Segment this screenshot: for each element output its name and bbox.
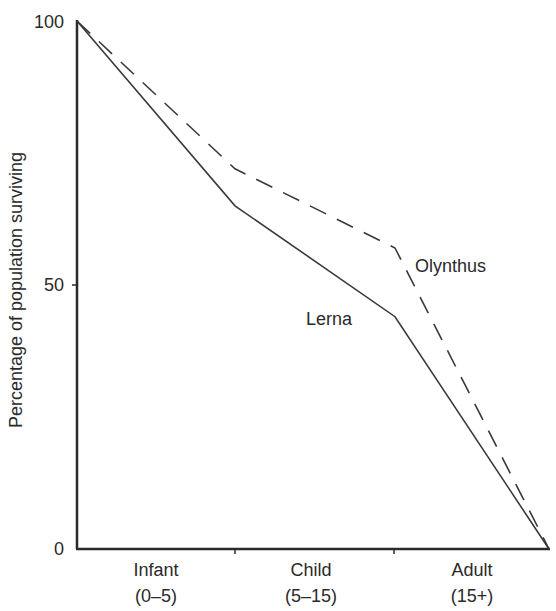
series-label-lerna: Lerna	[306, 309, 353, 329]
series-layer: Lerna Olynthus	[77, 21, 549, 549]
x-category-child-range: (5–15)	[285, 586, 337, 606]
survival-chart: 100 50 0 Percentage of population surviv…	[0, 0, 556, 611]
x-category-adult: Adult	[451, 560, 492, 580]
y-tick-50: 50	[44, 275, 64, 295]
y-axis-title: Percentage of population surviving	[6, 152, 26, 428]
x-category-infant-range: (0–5)	[135, 586, 177, 606]
y-tick-100: 100	[34, 12, 64, 32]
x-axis: Infant (0–5) Child (5–15) Adult (15+)	[76, 549, 550, 606]
x-category-adult-range: (15+)	[451, 586, 494, 606]
series-label-olynthus: Olynthus	[415, 256, 486, 276]
line-lerna	[77, 21, 549, 549]
y-axis: 100 50 0 Percentage of population surviv…	[6, 12, 77, 559]
x-category-child: Child	[290, 560, 331, 580]
y-tick-0: 0	[54, 539, 64, 559]
x-category-infant: Infant	[133, 560, 178, 580]
line-olynthus	[77, 21, 549, 549]
